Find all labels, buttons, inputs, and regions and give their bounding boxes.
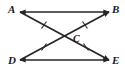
vertex-label-e: E: [112, 55, 119, 66]
vertex-label-d: D: [8, 55, 16, 66]
vertex-label-c: C: [73, 33, 80, 44]
vertex-label-a: A: [8, 4, 15, 15]
segment-group: [20, 12, 109, 60]
vertex-label-b: B: [112, 4, 119, 15]
geometry-figure: A B C D E: [0, 0, 125, 71]
geometry-canvas: [0, 0, 125, 71]
